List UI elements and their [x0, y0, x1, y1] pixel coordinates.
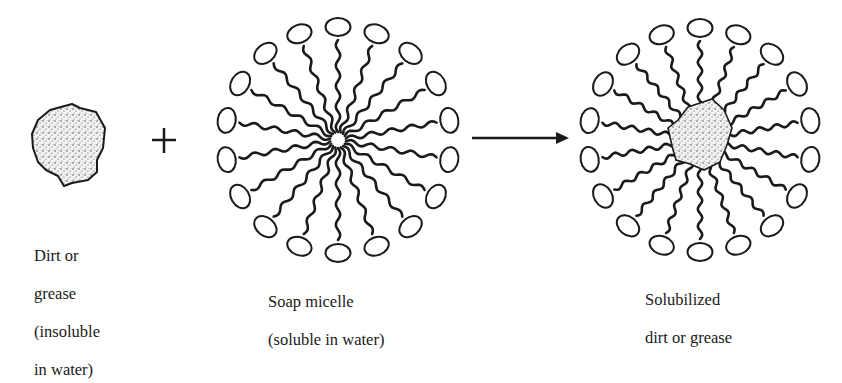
polar-head — [362, 233, 392, 258]
hydrocarbon-tail — [343, 63, 402, 133]
hydrocarbon-tail — [341, 148, 373, 235]
polar-head — [395, 212, 426, 242]
hydrocarbon-tail — [698, 162, 702, 239]
reaction-arrow-icon — [472, 132, 569, 144]
dirt-label-line-3: (insoluble — [34, 322, 100, 341]
polar-head — [250, 38, 281, 68]
polar-head — [362, 21, 392, 46]
dirt-label-line-1: Dirt or — [34, 246, 100, 265]
hydrocarbon-tail — [336, 40, 340, 132]
polar-head — [647, 22, 677, 47]
polar-head — [799, 146, 821, 174]
polar-head — [285, 21, 315, 46]
hydrocarbon-tail — [666, 161, 693, 233]
polar-head — [422, 68, 450, 99]
hydrocarbon-tail — [722, 142, 798, 157]
solubilized-micelle — [579, 19, 822, 261]
hydrocarbon-tail — [303, 46, 335, 133]
soap-micelle — [216, 18, 461, 262]
micelle-label-line-1: Soap micelle — [268, 292, 384, 311]
polar-head — [326, 18, 351, 36]
hydrocarbon-tail — [274, 146, 333, 217]
polar-head — [589, 69, 617, 100]
micelle-label: Soap micelle (soluble in water) — [268, 273, 384, 368]
polar-head — [326, 244, 351, 262]
polar-head — [226, 68, 254, 99]
polar-head — [688, 243, 713, 261]
hydrocarbon-tail — [603, 123, 679, 138]
plus-icon — [152, 128, 176, 153]
hydrocarbon-tail — [636, 157, 686, 216]
polar-head — [647, 232, 677, 257]
dirt-label-line-4: in water) — [34, 360, 100, 379]
polar-head — [579, 146, 601, 174]
polar-head — [226, 181, 254, 212]
polar-head — [422, 181, 450, 212]
polar-head — [783, 181, 811, 212]
polar-head — [757, 211, 788, 241]
polar-head — [723, 232, 753, 257]
solubilized-label: Solubilized dirt or grease — [645, 271, 732, 366]
polar-head — [723, 22, 753, 47]
polar-head — [216, 146, 238, 174]
dirt-label-line-2: grease — [34, 284, 100, 303]
solubilized-label-line-2: dirt or grease — [645, 328, 732, 347]
polar-head — [285, 233, 315, 258]
micelle-label-line-2: (soluble in water) — [268, 330, 384, 349]
polar-head — [688, 19, 713, 37]
polar-head — [579, 107, 601, 135]
polar-head — [438, 107, 460, 135]
polar-head — [783, 69, 811, 100]
polar-head — [216, 107, 238, 135]
polar-head — [438, 146, 460, 174]
polar-head — [613, 39, 644, 69]
dirt-particle — [32, 104, 105, 186]
hydrocarbon-tail — [336, 148, 340, 240]
solubilized-label-line-1: Solubilized — [645, 290, 732, 309]
polar-head — [799, 107, 821, 135]
dirt-label: Dirt or grease (insoluble in water) — [34, 227, 100, 383]
polar-head — [589, 181, 617, 212]
